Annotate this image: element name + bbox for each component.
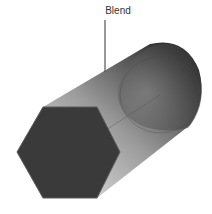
callout-label: Blend	[105, 5, 131, 16]
blend-diagram: Blend	[0, 0, 212, 214]
